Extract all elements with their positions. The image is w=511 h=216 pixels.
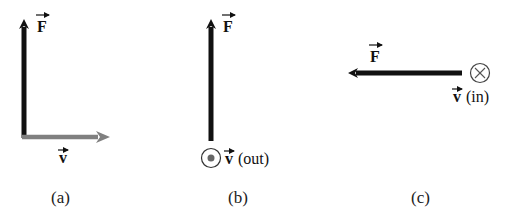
svg-text:F: F: [223, 18, 233, 35]
velocity-label-a: v: [58, 149, 68, 166]
svg-text:v: v: [59, 149, 67, 166]
force-velocity-diagram: F v (a) F v (out) (b) F: [0, 0, 511, 216]
svg-text:v: v: [453, 88, 461, 105]
svg-text:F: F: [370, 48, 380, 65]
force-label-c: F: [369, 45, 382, 65]
velocity-out-of-page-icon: [202, 149, 221, 168]
caption-b: (b): [228, 188, 248, 207]
panel-c: F v (in) (c): [356, 45, 490, 207]
velocity-into-page-icon: [471, 64, 490, 83]
caption-a: (a): [51, 188, 70, 207]
svg-text:(in): (in): [466, 88, 489, 106]
svg-text:v: v: [225, 150, 233, 167]
force-label-b: F: [222, 15, 235, 35]
svg-text:F: F: [37, 18, 47, 35]
svg-text:(out): (out): [238, 150, 269, 168]
panel-a: F v (a): [22, 15, 98, 207]
velocity-label-b: v (out): [224, 150, 269, 168]
velocity-label-c: v (in): [452, 88, 489, 106]
caption-c: (c): [411, 188, 430, 207]
force-label-a: F: [36, 15, 49, 35]
panel-b: F v (out) (b): [202, 15, 270, 207]
